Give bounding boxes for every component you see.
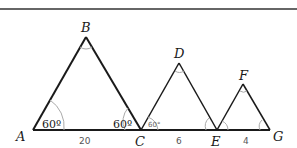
vertex-label-a: A: [15, 129, 25, 144]
angle-label-c-abc: 60º: [113, 118, 132, 131]
vertex-label-f: F: [238, 68, 249, 83]
angle-arc-e1: [205, 118, 209, 130]
angle-label-c-cde: 60°: [148, 121, 160, 129]
side-label-ce: 6: [176, 136, 182, 146]
angle-arc-d: [175, 71, 184, 72]
angle-arc-g: [259, 120, 262, 130]
vertex-label-e: E: [210, 134, 221, 148]
angle-arc-e2: [222, 121, 228, 130]
vertex-label-g: G: [273, 129, 283, 144]
triangle-abc: [33, 37, 141, 130]
angle-label-a: 60º: [42, 118, 61, 131]
angle-arc-b: [80, 47, 92, 49]
vertex-label-c: C: [135, 134, 145, 148]
triangle-cde: [141, 63, 217, 130]
vertex-label-b: B: [80, 20, 91, 35]
vertex-label-d: D: [173, 46, 185, 61]
triangle-diagram: A B C D E F G 60º 60º 60° 20 6 4: [0, 0, 297, 148]
side-label-eg: 4: [243, 136, 249, 146]
triangle-efg: [217, 84, 270, 130]
side-label-ac: 20: [79, 136, 91, 146]
angle-arc-f: [240, 91, 247, 92]
